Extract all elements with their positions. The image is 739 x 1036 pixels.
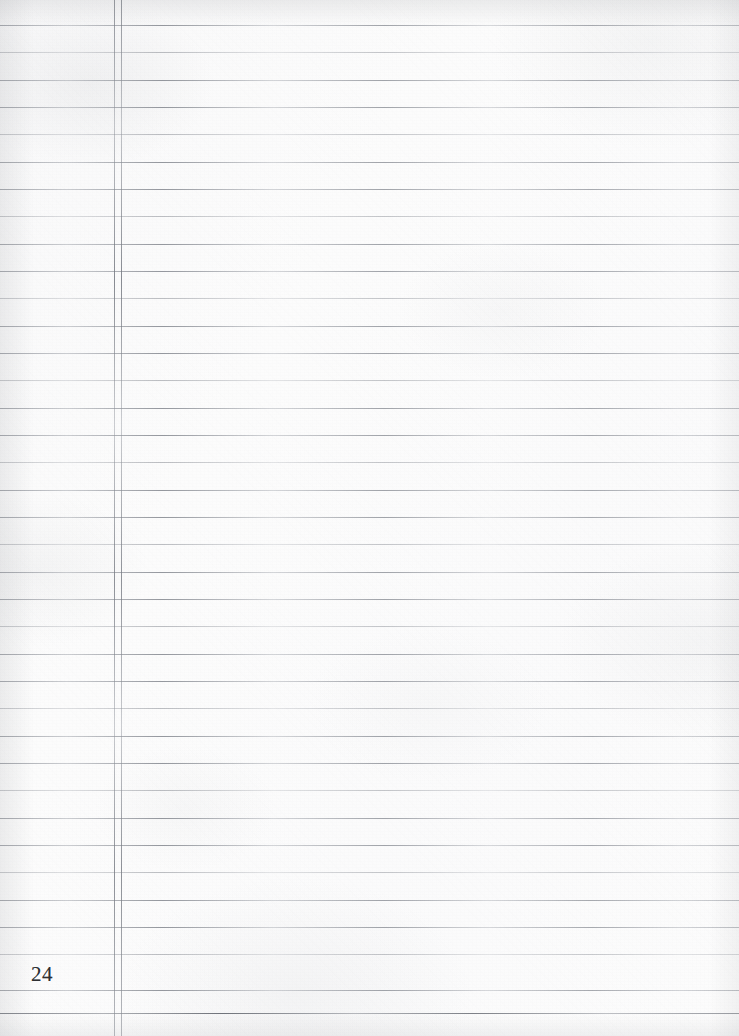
left-margin-area xyxy=(0,0,114,1036)
writing-area[interactable] xyxy=(122,25,739,1013)
notebook-page: 24 xyxy=(0,0,739,1036)
page-number: 24 xyxy=(31,963,53,985)
margin-rule-line-left xyxy=(114,0,115,1036)
